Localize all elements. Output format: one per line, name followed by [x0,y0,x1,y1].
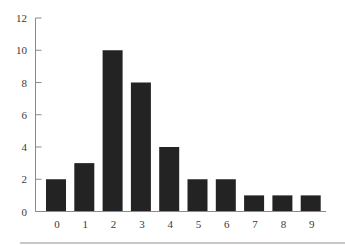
bar-3 [131,83,151,212]
bars-group [46,50,321,211]
x-tick-label: 2 [111,218,117,230]
x-tick-label: 4 [167,218,173,230]
x-tick-label: 5 [196,218,202,230]
y-tick-label: 0 [22,206,28,218]
y-tick-label: 10 [16,44,28,56]
bar-0 [46,179,66,211]
y-tick-label: 2 [22,173,28,185]
y-axis: 024681012 [16,12,42,218]
y-tick-label: 6 [22,109,28,121]
bar-chart: 024681012 0123456789 [0,0,345,245]
x-axis: 0123456789 [36,212,327,231]
y-tick-label: 8 [22,77,28,89]
x-tick-label: 1 [83,218,89,230]
bar-1 [74,163,94,211]
x-tick-label: 3 [139,218,145,230]
x-tick-label: 9 [309,218,315,230]
y-tick-label: 4 [22,141,28,153]
x-tick-label: 7 [252,218,258,230]
bar-7 [244,195,264,211]
x-tick-label: 6 [224,218,230,230]
bar-5 [188,179,208,211]
bar-2 [103,50,123,211]
bar-4 [159,147,179,212]
bar-9 [301,195,321,211]
y-tick-label: 12 [16,12,27,24]
x-tick-label: 8 [281,218,287,230]
bar-6 [216,179,236,211]
bar-8 [272,195,292,211]
x-tick-label: 0 [54,218,60,230]
